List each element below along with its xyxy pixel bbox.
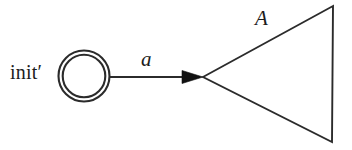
diagram-canvas [0, 0, 352, 150]
transition-label: a [141, 49, 152, 70]
transition-arrowhead [182, 71, 203, 84]
initial-state-node [59, 51, 110, 102]
module-triangle [203, 6, 333, 142]
automaton-figure: init′ a A [0, 0, 352, 150]
module-label: A [255, 8, 268, 29]
initial-state-label: init′ [10, 62, 42, 82]
state-outer-circle [59, 51, 110, 102]
transition-arrow [110, 71, 203, 84]
state-inner-circle [63, 55, 106, 98]
module-triangle-outline [203, 6, 333, 142]
